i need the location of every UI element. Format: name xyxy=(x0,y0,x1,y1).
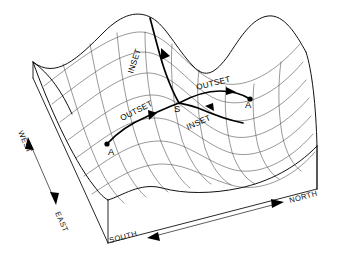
inset-curve-upper xyxy=(150,18,179,103)
inset-upper-arrowhead xyxy=(161,48,170,60)
inset-manifold-upper xyxy=(150,18,179,103)
inset-lower-arrowhead xyxy=(205,103,214,111)
label-south: SOUTH xyxy=(108,229,138,245)
label-inset-lower: INSET xyxy=(185,113,212,132)
surface-rim-near xyxy=(108,146,317,200)
box-edge-base-left xyxy=(33,78,108,243)
label-north: NORTH xyxy=(288,189,318,205)
north-arrowhead xyxy=(271,199,284,208)
mesh-line xyxy=(68,95,309,140)
label-west: WEST xyxy=(16,129,34,154)
label-inset-upper: INSET xyxy=(126,47,142,74)
mesh-line xyxy=(84,134,313,176)
axis-west-east: WEST EAST xyxy=(16,129,70,233)
surface-edge-right xyxy=(306,52,317,146)
mesh-line xyxy=(63,64,124,203)
surface-ridge-far xyxy=(33,14,306,73)
label-saddle-point: S xyxy=(174,103,180,114)
mesh-line xyxy=(52,52,303,104)
saddle-surface-diagram: INSET INSET OUTSET OUTSET S A A WEST EAS… xyxy=(0,0,355,270)
outset-right-arrowhead xyxy=(226,87,236,95)
south-arrowhead xyxy=(147,232,160,241)
east-arrowhead xyxy=(50,192,59,205)
outset-manifold-right xyxy=(179,87,253,103)
label-east: EAST xyxy=(53,210,70,233)
box-edge-base-front xyxy=(108,189,317,243)
base-box xyxy=(33,62,317,243)
outset-left-arrowhead xyxy=(148,110,157,120)
outset-curve-right xyxy=(179,91,250,103)
mesh-line xyxy=(60,73,306,122)
surface-edge-left xyxy=(33,62,108,200)
axis-line-south-north xyxy=(151,203,280,237)
surface-fold-left xyxy=(33,62,72,114)
figure-root: INSET INSET OUTSET OUTSET S A A WEST EAS… xyxy=(0,0,355,270)
label-attractor-left: A xyxy=(108,146,115,157)
label-attractor-right: A xyxy=(245,99,252,110)
